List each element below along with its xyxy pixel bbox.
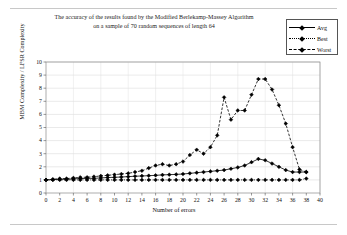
series-marker-avg: [215, 169, 219, 173]
series-marker-avg: [209, 170, 213, 174]
series-marker-best: [243, 178, 247, 182]
series-marker-best: [250, 178, 254, 182]
series-marker-avg: [202, 170, 206, 174]
series-marker-avg: [195, 171, 199, 175]
series-marker-avg: [188, 172, 192, 176]
series-marker-best: [161, 178, 165, 182]
series-marker-best: [215, 178, 219, 182]
series-marker-worst: [257, 77, 261, 81]
series-marker-best: [222, 178, 226, 182]
series-marker-worst: [215, 134, 219, 138]
series-marker-avg: [270, 162, 274, 166]
series-marker-worst: [113, 173, 117, 177]
series-marker-avg: [250, 160, 254, 164]
series-marker-avg: [291, 170, 295, 174]
series-marker-worst: [236, 109, 240, 113]
series-marker-worst: [181, 160, 185, 164]
series-marker-best: [154, 178, 158, 182]
series-marker-worst: [161, 162, 165, 166]
series-marker-worst: [202, 152, 206, 156]
series-marker-worst: [174, 162, 178, 166]
series-marker-avg: [284, 168, 288, 172]
series-marker-best: [270, 178, 274, 182]
plot-canvas: [0, 0, 347, 235]
series-marker-best: [120, 178, 124, 182]
series-marker-best: [202, 178, 206, 182]
chart-figure: The accuracy of the results found by the…: [0, 0, 347, 235]
series-marker-worst: [133, 170, 137, 174]
series-marker-worst: [250, 93, 254, 97]
series-marker-avg: [140, 174, 144, 178]
series-marker-worst: [120, 172, 124, 176]
series-marker-avg: [222, 168, 226, 172]
series-marker-worst: [44, 178, 48, 182]
series-marker-best: [291, 178, 295, 182]
series-marker-avg: [181, 172, 185, 176]
series-marker-worst: [277, 103, 281, 107]
series-marker-worst: [298, 168, 302, 172]
series-marker-best: [126, 178, 130, 182]
series-marker-best: [167, 178, 171, 182]
series-marker-best: [140, 178, 144, 182]
series-marker-best: [263, 178, 267, 182]
series-marker-worst: [284, 122, 288, 126]
series-marker-avg: [161, 173, 165, 177]
series-marker-best: [133, 178, 137, 182]
series-marker-avg: [174, 173, 178, 177]
series-marker-worst: [243, 109, 247, 113]
series-marker-avg: [257, 157, 261, 161]
series-marker-best: [236, 178, 240, 182]
series-marker-avg: [133, 174, 137, 178]
series-marker-avg: [229, 167, 233, 171]
series-marker-avg: [263, 158, 267, 162]
series-marker-best: [209, 178, 213, 182]
series-marker-best: [147, 178, 151, 182]
plot-container: MBM Complexity / LFSR Complexity Number …: [0, 0, 347, 235]
series-marker-avg: [154, 173, 158, 177]
series-marker-worst: [140, 169, 144, 173]
series-marker-best: [174, 178, 178, 182]
series-marker-best: [229, 178, 233, 182]
series-marker-best: [195, 178, 199, 182]
series-marker-best: [188, 178, 192, 182]
series-marker-best: [257, 178, 261, 182]
series-marker-best: [113, 178, 117, 182]
series-marker-avg: [236, 166, 240, 170]
series-marker-worst: [106, 173, 110, 177]
series-marker-best: [106, 178, 110, 182]
series-marker-worst: [222, 96, 226, 100]
series-marker-worst: [291, 145, 295, 149]
series-marker-avg: [147, 174, 151, 178]
series-marker-avg: [277, 165, 281, 169]
series-marker-worst: [126, 172, 130, 176]
series-marker-best: [277, 178, 281, 182]
series-marker-best: [298, 178, 302, 182]
series-marker-best: [284, 178, 288, 182]
series-marker-worst: [304, 170, 308, 174]
series-marker-avg: [167, 173, 171, 177]
series-marker-best: [181, 178, 185, 182]
